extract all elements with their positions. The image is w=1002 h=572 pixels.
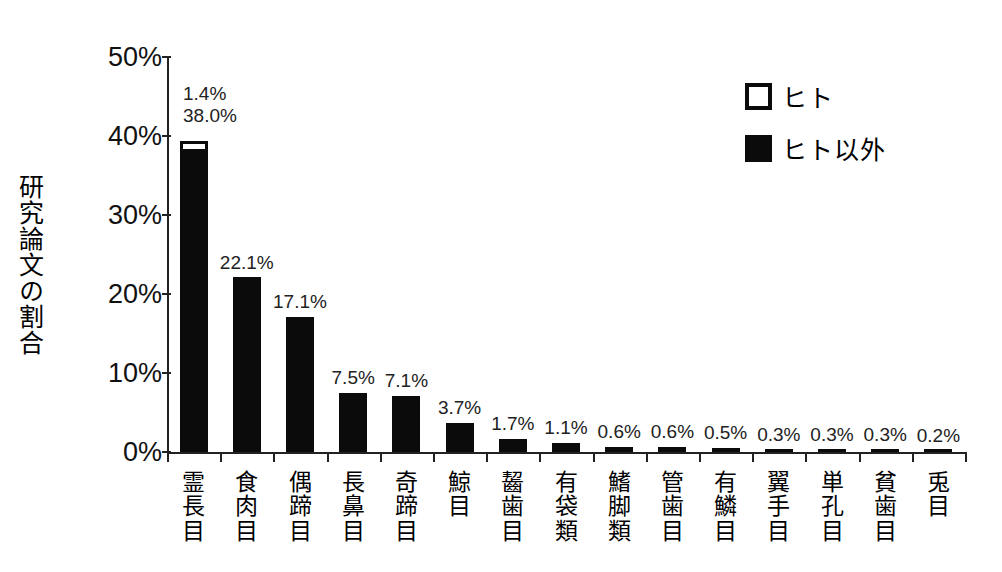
bar-value-text: 0.5%	[704, 422, 747, 444]
bar-stack[interactable]	[552, 443, 580, 452]
y-tick-label: 0%	[72, 439, 162, 466]
bar-segment-nonhuman[interactable]	[233, 277, 261, 452]
bar-segment-nonhuman[interactable]	[765, 449, 793, 452]
bar-segment-nonhuman[interactable]	[286, 317, 314, 452]
x-category-char: 目	[804, 519, 860, 543]
bar-stack[interactable]	[924, 449, 952, 452]
y-tick-label: 30%	[72, 202, 162, 229]
bar-group[interactable]: 1.4%38.0%	[167, 57, 220, 452]
x-category-label: 食肉目	[219, 470, 275, 543]
bar-segment-nonhuman[interactable]	[871, 449, 899, 452]
bar-stack[interactable]	[392, 396, 420, 452]
bar-stack[interactable]	[871, 449, 899, 452]
legend-label: ヒト	[782, 78, 834, 114]
x-category-char: 長	[166, 494, 222, 518]
bar-segment-human[interactable]	[180, 141, 208, 152]
bar-group[interactable]: 7.5%	[327, 57, 380, 452]
bar-value-text: 0.2%	[917, 425, 960, 447]
bar-stack[interactable]	[180, 141, 208, 452]
x-category-char: 目	[751, 519, 807, 543]
bar-value-text: 1.7%	[491, 413, 534, 435]
bar-stack[interactable]	[765, 449, 793, 452]
x-category-char: 目	[857, 519, 913, 543]
bar-segment-nonhuman[interactable]	[499, 439, 527, 452]
x-category-label: 鯨目	[432, 470, 488, 519]
x-category-char: 霊	[166, 470, 222, 494]
x-category-char: 奇	[378, 470, 434, 494]
bar-group[interactable]: 17.1%	[273, 57, 326, 452]
x-category-char: 目	[325, 519, 381, 543]
x-category-char: 歯	[857, 494, 913, 518]
y-axis-ticks: 50%40%30%20%10%0%	[42, 0, 162, 572]
bar-stack[interactable]	[499, 439, 527, 452]
x-tick-mark	[539, 452, 541, 462]
x-category-char: 齧	[485, 470, 541, 494]
bar-stack[interactable]	[712, 448, 740, 452]
bar-value-text: 7.5%	[332, 367, 375, 389]
x-tick-mark	[805, 452, 807, 462]
x-category-label: 長鼻目	[325, 470, 381, 543]
legend-label: ヒト以外	[782, 130, 886, 166]
x-category-char: 管	[644, 470, 700, 494]
bar-value-label: 1.7%	[491, 413, 534, 435]
x-category-char: 類	[591, 519, 647, 543]
x-tick-mark	[167, 452, 169, 462]
bar-value-text: 0.3%	[757, 424, 800, 446]
bar-stack[interactable]	[339, 393, 367, 452]
x-category-char: 肉	[219, 494, 275, 518]
bar-value-label: 0.3%	[757, 424, 800, 446]
x-category-char: 長	[325, 470, 381, 494]
bar-stack[interactable]	[446, 423, 474, 452]
x-category-char: 有	[538, 470, 594, 494]
bar-segment-nonhuman[interactable]	[924, 449, 952, 452]
x-category-char: 鯨	[432, 470, 488, 494]
x-category-char: 目	[485, 519, 541, 543]
bar-value-text: 17.1%	[273, 291, 327, 313]
x-category-char: 孔	[804, 494, 860, 518]
bar-group[interactable]: 1.7%	[486, 57, 539, 452]
bar-value-text: 1.1%	[544, 417, 587, 439]
bar-value-text: 3.7%	[438, 397, 481, 419]
bar-segment-nonhuman[interactable]	[392, 396, 420, 452]
x-category-char: 翼	[751, 470, 807, 494]
bar-segment-nonhuman[interactable]	[339, 393, 367, 452]
legend-swatch-filled-icon	[745, 135, 772, 162]
x-tick-mark	[859, 452, 861, 462]
bar-value-text: 0.6%	[651, 421, 694, 443]
bar-segment-nonhuman[interactable]	[180, 152, 208, 452]
x-tick-mark	[699, 452, 701, 462]
bar-value-text: 22.1%	[220, 252, 274, 274]
bar-segment-nonhuman[interactable]	[658, 447, 686, 452]
legend-swatch-open-icon	[745, 83, 772, 110]
x-category-char: 類	[538, 519, 594, 543]
legend-item[interactable]: ヒト	[745, 78, 955, 114]
bar-stack[interactable]	[286, 317, 314, 452]
x-category-char: 目	[272, 519, 328, 543]
legend-item[interactable]: ヒト以外	[745, 130, 955, 166]
bar-segment-nonhuman[interactable]	[446, 423, 474, 452]
bar-segment-nonhuman[interactable]	[818, 449, 846, 452]
x-tick-mark	[646, 452, 648, 462]
bar-group[interactable]: 22.1%	[220, 57, 273, 452]
bar-segment-nonhuman[interactable]	[552, 443, 580, 452]
x-axis-line	[167, 452, 965, 454]
bar-stack[interactable]	[658, 447, 686, 452]
bar-value-label: 0.6%	[651, 421, 694, 443]
bar-group[interactable]: 1.1%	[539, 57, 592, 452]
bar-group[interactable]: 0.6%	[646, 57, 699, 452]
bar-stack[interactable]	[818, 449, 846, 452]
x-category-char: 歯	[485, 494, 541, 518]
bar-stack[interactable]	[605, 447, 633, 452]
bar-group[interactable]: 3.7%	[433, 57, 486, 452]
bar-value-label: 1.1%	[544, 417, 587, 439]
x-category-label: 兎目	[910, 470, 966, 519]
x-category-label: 齧歯目	[485, 470, 541, 543]
x-category-label: 有袋類	[538, 470, 594, 543]
x-category-char: 袋	[538, 494, 594, 518]
bar-segment-nonhuman[interactable]	[712, 448, 740, 452]
bar-value-label: 0.3%	[810, 424, 853, 446]
bar-segment-nonhuman[interactable]	[605, 447, 633, 452]
bar-group[interactable]: 7.1%	[380, 57, 433, 452]
bar-group[interactable]: 0.6%	[593, 57, 646, 452]
bar-stack[interactable]	[233, 277, 261, 452]
